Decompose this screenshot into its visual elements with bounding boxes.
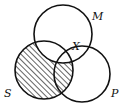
label-p: P [110,87,119,100]
venn-diagram: M X S P [0,0,124,112]
label-s: S [4,87,12,100]
label-m: M [91,10,104,23]
label-x: X [71,40,81,53]
